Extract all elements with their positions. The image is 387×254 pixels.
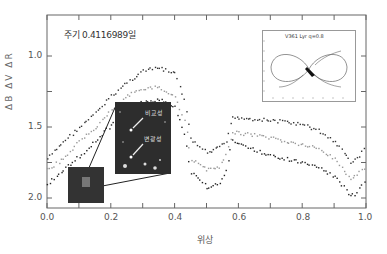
y-tick-label: 1.5 bbox=[28, 121, 42, 131]
highlight-region bbox=[82, 177, 90, 187]
star-field-markers bbox=[115, 102, 171, 174]
y-tick-label: 2.0 bbox=[28, 192, 42, 202]
x-tick-label: 1.0 bbox=[358, 212, 372, 222]
star-field-photo: 비교성 변광성 bbox=[115, 102, 171, 174]
x-tick-label: 0.8 bbox=[296, 212, 310, 222]
x-tick-label: 0.4 bbox=[168, 212, 182, 222]
roche-lobe-inset: V361 Lyr q=0.8 bbox=[262, 30, 356, 102]
y-tick-label: 1.0 bbox=[28, 50, 42, 60]
period-label: 주기 0.4116989일 bbox=[64, 28, 136, 41]
x-tick-label: 0.0 bbox=[40, 212, 54, 222]
x-tick-label: 0.2 bbox=[104, 212, 118, 222]
thumbnail-photo bbox=[68, 167, 104, 203]
x-tick-label: 0.6 bbox=[232, 212, 246, 222]
x-axis-label: 위상 bbox=[197, 233, 213, 246]
y-axis-label: ΔB ΔV ΔR bbox=[4, 51, 14, 110]
roche-lobe-diagram bbox=[263, 31, 355, 101]
connector-line bbox=[85, 103, 117, 177]
